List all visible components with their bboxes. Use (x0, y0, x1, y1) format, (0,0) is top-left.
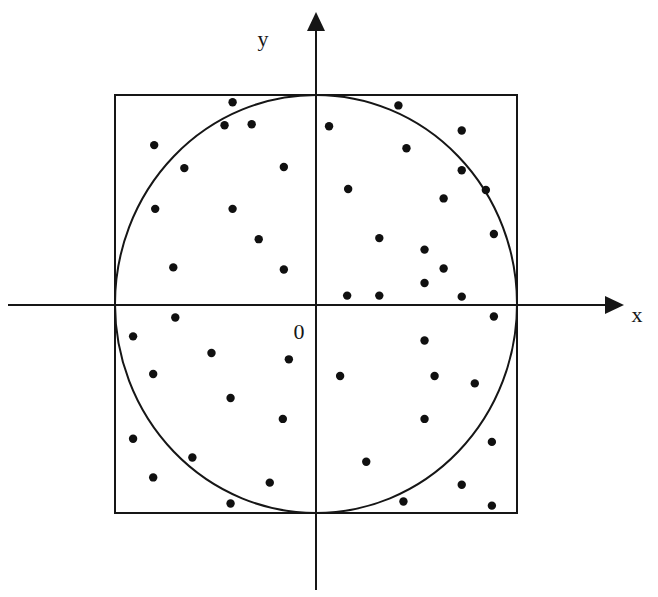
sample-point (255, 235, 263, 243)
sample-point (226, 394, 234, 402)
sample-point (151, 205, 159, 213)
sample-point (228, 205, 236, 213)
sample-point (375, 291, 383, 299)
sample-point (458, 481, 466, 489)
sample-point (488, 501, 496, 509)
sample-point (343, 291, 351, 299)
sample-point (394, 101, 402, 109)
sample-point (488, 438, 496, 446)
sample-point (280, 265, 288, 273)
sample-point (169, 263, 177, 271)
scatter-plot-svg: x y 0 (0, 0, 658, 597)
sample-point (375, 234, 383, 242)
sample-point (180, 164, 188, 172)
figure-background (0, 0, 658, 597)
sample-point (266, 478, 274, 486)
sample-point (490, 230, 498, 238)
sample-point (482, 186, 490, 194)
sample-point (336, 372, 344, 380)
sample-point (362, 458, 370, 466)
sample-point (439, 194, 447, 202)
sample-point (188, 453, 196, 461)
sample-point (420, 336, 428, 344)
figure-container: x y 0 (0, 0, 658, 597)
x-axis-label: x (632, 302, 643, 327)
sample-point (207, 349, 215, 357)
sample-point (325, 122, 333, 130)
origin-label: 0 (294, 319, 305, 344)
sample-point (220, 121, 228, 129)
sample-point (280, 163, 288, 171)
sample-point (344, 185, 352, 193)
sample-point (420, 415, 428, 423)
sample-point (458, 166, 466, 174)
sample-point (420, 279, 428, 287)
sample-point (150, 141, 158, 149)
sample-point (458, 292, 466, 300)
sample-point (285, 355, 293, 363)
sample-point (471, 379, 479, 387)
sample-point (226, 499, 234, 507)
sample-point (490, 312, 498, 320)
sample-point (420, 245, 428, 253)
sample-point (279, 415, 287, 423)
sample-point (149, 370, 157, 378)
sample-point (228, 98, 236, 106)
sample-point (430, 372, 438, 380)
sample-point (439, 264, 447, 272)
sample-point (129, 332, 137, 340)
sample-point (458, 126, 466, 134)
sample-point (247, 120, 255, 128)
sample-point (399, 497, 407, 505)
sample-point (171, 313, 179, 321)
y-axis-label: y (258, 26, 269, 51)
sample-point (149, 473, 157, 481)
sample-point (402, 144, 410, 152)
sample-point (129, 435, 137, 443)
